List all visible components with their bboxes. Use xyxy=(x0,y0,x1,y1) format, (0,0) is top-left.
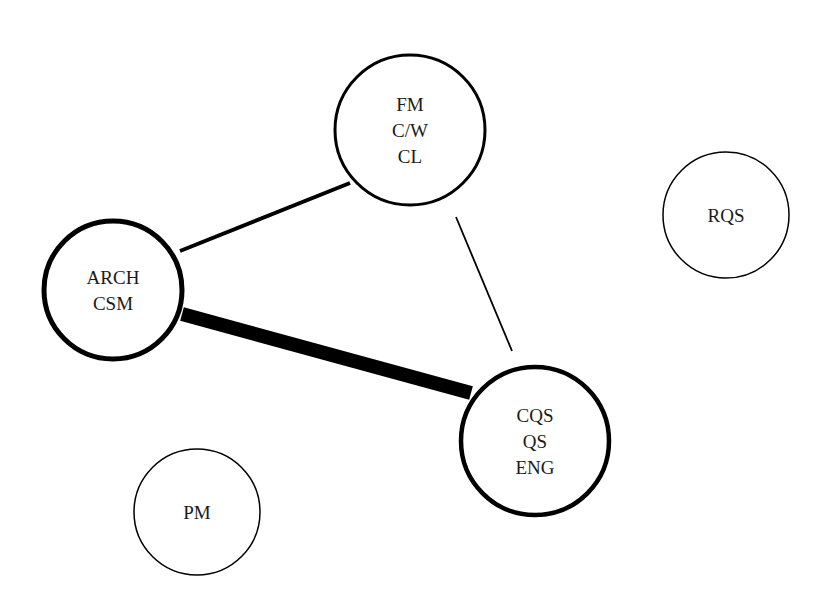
node-pm: PM xyxy=(134,449,260,575)
node-label: CSM xyxy=(93,293,133,314)
edge-arch-fm xyxy=(180,183,350,251)
node-label: ENG xyxy=(515,457,554,478)
node-label: PM xyxy=(183,502,211,523)
node-label: RQS xyxy=(708,205,745,226)
node-label: QS xyxy=(523,431,547,452)
node-cqs: CQSQSENG xyxy=(461,367,609,515)
edge-fm-cqs xyxy=(456,217,512,351)
nodes-layer: FMC/WCLARCHCSMCQSQSENGRQSPM xyxy=(44,55,789,575)
node-label: CL xyxy=(398,146,422,167)
node-rqs: RQS xyxy=(663,152,789,278)
node-label: ARCH xyxy=(87,267,140,288)
edges-layer xyxy=(180,183,512,393)
node-label: CQS xyxy=(517,405,554,426)
node-fm: FMC/WCL xyxy=(335,55,485,205)
network-diagram: FMC/WCLARCHCSMCQSQSENGRQSPM xyxy=(0,0,828,612)
node-label: FM xyxy=(396,94,424,115)
node-label: C/W xyxy=(392,120,428,141)
edge-arch-cqs xyxy=(182,314,471,393)
node-arch: ARCHCSM xyxy=(44,221,182,359)
node-circle xyxy=(44,221,182,359)
